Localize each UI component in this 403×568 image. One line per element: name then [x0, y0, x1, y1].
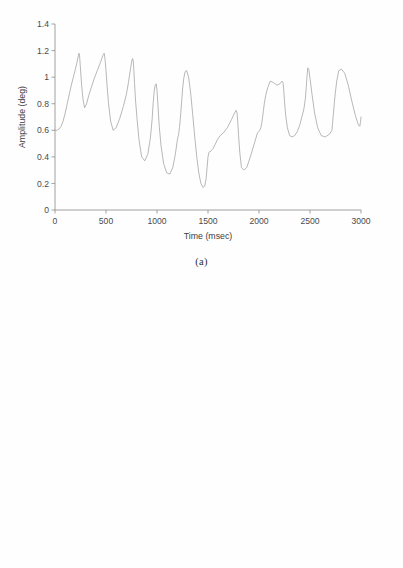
chart-b-container: 0123456050010001500200025003000Time (mse… [0, 280, 403, 530]
chart-b-svg: 0123456050010001500200025003000Time (mse… [0, 280, 403, 530]
data-series-line [55, 53, 361, 187]
y-tick-label: 1 [44, 72, 49, 82]
y-tick-label: 0.4 [37, 152, 49, 162]
x-tick-label: 1500 [198, 216, 217, 226]
x-tick-label: 2000 [249, 216, 268, 226]
x-axis-title: Time (msec) [184, 231, 233, 241]
chart-a-container: 00.20.40.60.811.21.405001000150020002500… [0, 0, 403, 250]
figure-page: 00.20.40.60.811.21.405001000150020002500… [0, 0, 403, 568]
y-tick-label: 0.8 [37, 99, 49, 109]
y-tick-label: 0 [44, 205, 49, 215]
x-tick-label: 0 [53, 216, 58, 226]
y-tick-label: 0.6 [37, 125, 49, 135]
figure-panel-b: 0123456050010001500200025003000Time (mse… [0, 280, 403, 568]
y-tick-label: 1.4 [37, 19, 49, 29]
caption-a: (a) [0, 256, 403, 267]
chart-a-svg: 00.20.40.60.811.21.405001000150020002500… [0, 0, 403, 250]
figure-panel-a: 00.20.40.60.811.21.405001000150020002500… [0, 0, 403, 280]
x-tick-label: 2500 [300, 216, 319, 226]
y-axis-title: Amplitude (deg) [17, 86, 27, 148]
y-tick-label: 1.2 [37, 46, 49, 56]
x-tick-label: 3000 [351, 216, 370, 226]
x-tick-label: 500 [99, 216, 114, 226]
y-tick-label: 0.2 [37, 179, 49, 189]
x-tick-label: 1000 [147, 216, 166, 226]
